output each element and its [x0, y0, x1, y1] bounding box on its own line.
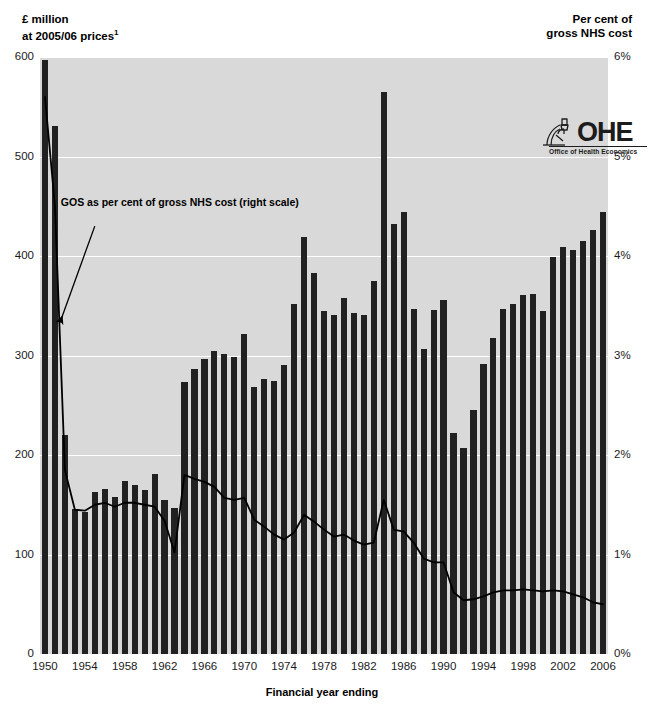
right-axis-tick-label: 4% [614, 249, 648, 261]
left-axis-title-footnote-marker: 1 [114, 28, 118, 37]
x-axis-tick-label: 1990 [422, 660, 466, 672]
ohe-wordmark: OHE [577, 117, 633, 148]
x-axis-tick-label: 1950 [23, 660, 67, 672]
left-axis-title: £ million at 2005/06 prices1 [22, 12, 119, 43]
right-axis-tick-label: 1% [614, 548, 648, 560]
right-axis-title: Per cent of gross NHS cost [546, 12, 632, 40]
right-axis-tick-label: 3% [614, 349, 648, 361]
x-axis-tick-label: 1978 [302, 660, 346, 672]
annotation-arrow-svg [40, 57, 608, 654]
x-axis-tick-label: 2002 [541, 660, 585, 672]
x-axis-tick-label: 1958 [103, 660, 147, 672]
right-axis-title-line1: Per cent of [573, 13, 632, 25]
x-axis-tick-label: 1986 [382, 660, 426, 672]
right-axis-title-line2: gross NHS cost [546, 27, 632, 39]
x-axis-tick-label: 1966 [182, 660, 226, 672]
left-axis-tick-label: 500 [0, 150, 34, 162]
left-axis-tick-label: 200 [0, 448, 34, 460]
right-axis-tick-label: 5% [614, 150, 648, 162]
annotation-layer: GOS as per cent of gross NHS cost (right… [40, 57, 608, 654]
x-axis-tick-label: 1994 [461, 660, 505, 672]
right-axis-tick-label: 0% [614, 647, 648, 659]
x-axis-tick-label: 1954 [63, 660, 107, 672]
x-axis-tick-label: 1970 [222, 660, 266, 672]
ohe-rule [549, 146, 647, 147]
left-axis-tick-label: 300 [0, 349, 34, 361]
microscope-icon [537, 116, 579, 148]
left-axis-title-line1: £ million [22, 13, 69, 25]
left-axis-tick-label: 600 [0, 50, 34, 62]
annotation-label: GOS as per cent of gross NHS cost (right… [61, 196, 299, 208]
x-axis-tick-label: 1982 [342, 660, 386, 672]
x-axis-tick-label: 1998 [501, 660, 545, 672]
left-axis-tick-label: 0 [0, 647, 34, 659]
x-axis-tick-label: 1962 [143, 660, 187, 672]
x-axis-tick-label: 1974 [262, 660, 306, 672]
annotation-arrow [60, 226, 95, 323]
right-axis-tick-label: 6% [614, 50, 648, 62]
left-axis-tick-label: 100 [0, 548, 34, 560]
x-axis-title: Financial year ending [0, 686, 644, 698]
left-axis-tick-label: 400 [0, 249, 34, 261]
left-axis-title-line2: at 2005/06 prices [22, 30, 114, 42]
right-axis-tick-label: 2% [614, 448, 648, 460]
x-axis-tick-label: 2006 [581, 660, 625, 672]
plot-area: GOS as per cent of gross NHS cost (right… [40, 57, 608, 654]
